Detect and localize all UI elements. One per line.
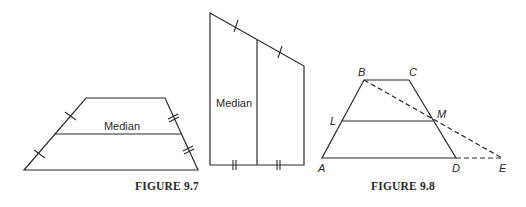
fig98-trapezoid: B C L M A D E (317, 66, 507, 174)
quadrilateral-median-label: Median (216, 97, 252, 109)
trapezoid-median-label: Median (104, 120, 140, 132)
figures-svg: Median Median FIGURE 9.7 (0, 0, 526, 207)
figure-caption-9-8: FIGURE 9.8 (371, 180, 435, 192)
point-label-e: E (499, 162, 507, 174)
tick-mark-single (234, 20, 238, 32)
diagram-canvas: Median Median FIGURE 9.7 (0, 0, 526, 207)
point-label-c: C (409, 66, 417, 78)
point-label-m: M (437, 108, 447, 120)
figure-caption-9-7: FIGURE 9.7 (135, 180, 199, 192)
point-label-b: B (358, 66, 365, 78)
tick-mark-single (65, 112, 76, 120)
point-label-a: A (317, 162, 325, 174)
trapezoid-abcd-outline (322, 80, 456, 158)
point-label-l: L (330, 115, 336, 127)
fig97-quadrilateral: Median (210, 13, 304, 170)
point-label-d: D (452, 162, 460, 174)
fig97-trapezoid: Median (24, 98, 198, 170)
